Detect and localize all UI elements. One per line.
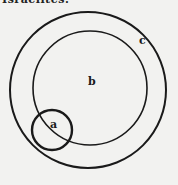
label-c: c xyxy=(139,34,146,47)
label-b: b xyxy=(88,75,96,88)
label-a: a xyxy=(50,118,57,131)
venn-diagram: c b a xyxy=(0,0,178,185)
